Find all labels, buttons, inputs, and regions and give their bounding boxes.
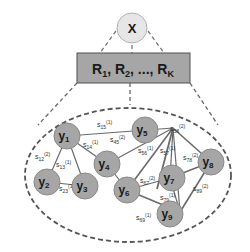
- node-y2: y2: [34, 169, 60, 195]
- edge-label-s12: s12(2): [35, 151, 51, 162]
- edge-label-s45: s45(2): [110, 134, 126, 145]
- edge-label-s13: s13(1): [56, 159, 72, 170]
- node-y8: y8: [198, 149, 224, 175]
- relation-box: R1, R2, ..., RK: [77, 53, 190, 83]
- top-node-x: X: [117, 13, 147, 43]
- graph-diagram: X R1, R2, ..., RK s15(1): [0, 0, 250, 252]
- node-y9: y9: [157, 201, 183, 227]
- edge-label-s69: s69(1): [136, 212, 152, 223]
- svg-text:X: X: [128, 21, 137, 36]
- edge-label-s89: s89(2): [193, 183, 209, 194]
- edge-label-s78: s78(2): [183, 152, 199, 163]
- node-y6: y6: [114, 177, 140, 203]
- nodes: y1 y2 y3 y4 y5 y6 y7 y8 y9: [34, 117, 224, 227]
- edge-label-s67: s67(2): [140, 175, 156, 186]
- funnel-lines: [38, 83, 218, 125]
- node-y3: y3: [72, 173, 98, 199]
- edge-label-s56: s56(1): [138, 145, 154, 156]
- node-y7: y7: [159, 165, 185, 191]
- node-y1: y1: [54, 123, 80, 149]
- node-y4: y4: [94, 151, 120, 177]
- edge-label-s15: s15(1): [97, 119, 113, 130]
- node-y5: y5: [132, 117, 158, 143]
